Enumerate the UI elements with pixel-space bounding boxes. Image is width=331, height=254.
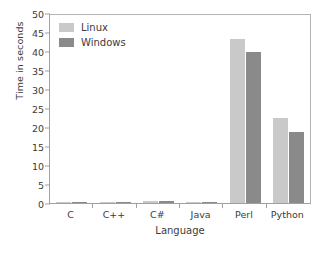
- bar-chart: Time in seconds 05101520253035404550 Lin…: [0, 0, 331, 254]
- bar-group: [143, 15, 174, 203]
- x-axis-tick-label: C++: [103, 209, 126, 220]
- x-axis-tick: [92, 204, 93, 208]
- bar-linux-perl: [230, 39, 245, 203]
- bar-linux-java: [186, 202, 201, 203]
- bar-group: [273, 15, 304, 203]
- bar-linux-c: [143, 201, 158, 203]
- bar-windows-c: [116, 202, 131, 203]
- bar-linux-c: [100, 202, 115, 203]
- legend-label: Windows: [81, 37, 126, 48]
- x-axis-tick: [266, 204, 267, 208]
- legend-item-windows: Windows: [59, 37, 126, 48]
- legend-item-linux: Linux: [59, 22, 126, 33]
- x-axis-title: Language: [49, 225, 311, 236]
- x-axis-tick: [136, 204, 137, 208]
- x-axis-tick-label: Python: [271, 209, 304, 220]
- bar-windows-perl: [246, 52, 261, 203]
- x-axis-tick-label: C#: [150, 209, 165, 220]
- bar-group: [230, 15, 261, 203]
- bar-windows-c: [72, 202, 87, 203]
- legend-label: Linux: [81, 22, 108, 33]
- x-axis-tick-label: Perl: [235, 209, 253, 220]
- bar-windows-java: [202, 202, 217, 204]
- x-axis-tick-label: C: [67, 209, 74, 220]
- x-axis-tick: [222, 204, 223, 208]
- x-axis-tick: [179, 204, 180, 208]
- x-axis-tick-labels: CC++C#JavaPerlPython: [49, 209, 311, 223]
- bar-linux-python: [273, 118, 288, 203]
- legend-swatch-icon: [59, 38, 74, 47]
- legend-swatch-icon: [59, 23, 74, 32]
- legend: LinuxWindows: [59, 22, 126, 48]
- bar-linux-c: [56, 202, 71, 203]
- y-axis-tick-labels: 05101520253035404550: [22, 14, 44, 204]
- bar-windows-python: [289, 132, 304, 203]
- bar-windows-c: [159, 201, 174, 203]
- bar-group: [186, 15, 217, 203]
- x-axis-tick-label: Java: [191, 209, 211, 220]
